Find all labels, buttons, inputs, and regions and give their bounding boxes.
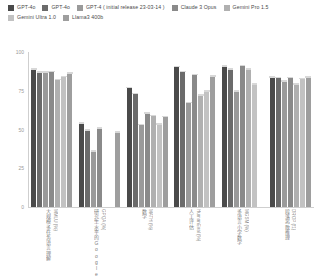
bar-value-cap — [228, 68, 234, 70]
bar-value-cap — [198, 94, 204, 96]
bar[interactable] — [49, 72, 54, 207]
x-axis-label-cell: HumanEval (%)人工评估 — [171, 209, 219, 279]
bar[interactable] — [157, 125, 162, 207]
bar-slot — [162, 52, 168, 207]
bar-value-cap — [150, 115, 156, 117]
x-axis-label-cell: MATH (%)数学 — [123, 209, 171, 279]
y-axis-tick-label: 100 — [16, 49, 28, 55]
x-axis-label-latin: MMLU (%) — [52, 209, 58, 231]
bar-value-cap — [162, 116, 168, 118]
legend-item[interactable]: GPT-4 ( initial release 23-03-14 ) — [77, 4, 165, 11]
bar[interactable] — [85, 131, 90, 207]
bar[interactable] — [163, 117, 168, 207]
legend-swatch-icon — [8, 5, 14, 11]
bar-value-cap — [222, 65, 228, 67]
legend-item[interactable]: Llama3 400b — [63, 14, 103, 21]
x-axis-label-cell: MGSM (%)多语言小学数学 — [219, 209, 267, 279]
bar-group-bars — [269, 52, 311, 207]
bar[interactable] — [115, 133, 120, 207]
bar-value-cap — [269, 76, 275, 78]
bar-value-cap — [305, 76, 311, 78]
bar-value-cap — [132, 93, 138, 95]
bar[interactable] — [186, 103, 191, 207]
legend-label: Claude 3 Opus — [181, 4, 217, 11]
legend-label: Gemini Ultra 1.0 — [17, 14, 56, 21]
bar-value-cap — [156, 123, 162, 125]
bar[interactable] — [204, 92, 209, 207]
bar[interactable] — [276, 78, 281, 207]
bar-value-cap — [49, 71, 55, 73]
bar-group — [28, 52, 76, 207]
x-axis-label-cell: MMLU (%)大规模多任务语言理解 — [28, 209, 76, 279]
legend-label: GPT-4o — [51, 4, 69, 11]
x-axis-labels: MMLU (%)大规模多任务语言理解GPQA (%)研究生水平的Google-P… — [28, 209, 314, 279]
bar[interactable] — [282, 82, 287, 207]
bar[interactable] — [294, 85, 299, 207]
bar-value-cap — [234, 90, 240, 92]
bar-value-cap — [204, 90, 210, 92]
bar[interactable] — [127, 88, 132, 207]
bar-group — [266, 52, 314, 207]
legend-item[interactable]: GPT-4o — [8, 4, 35, 11]
bar[interactable] — [43, 73, 48, 207]
bar[interactable] — [246, 70, 251, 207]
legend-swatch-icon — [8, 15, 14, 21]
bar[interactable] — [79, 124, 84, 207]
x-axis-label-latin: DROP (f1) — [290, 209, 296, 230]
bar-value-cap — [174, 66, 180, 68]
bar-group — [219, 52, 267, 207]
bar[interactable] — [133, 94, 138, 207]
bar[interactable] — [31, 70, 36, 207]
legend-label: GPT-4o — [17, 4, 35, 11]
legend-swatch-icon — [172, 5, 178, 11]
bar-slot — [210, 52, 216, 207]
legend-label: Llama3 400b — [72, 14, 103, 21]
bar-value-cap — [67, 72, 73, 74]
bar-group-bars — [222, 52, 264, 207]
bar[interactable] — [270, 78, 275, 207]
bar[interactable] — [222, 67, 227, 207]
bar[interactable] — [288, 78, 293, 207]
bar-value-cap — [252, 83, 258, 85]
y-axis-tick-label: 0 — [21, 204, 28, 210]
bar[interactable] — [91, 152, 96, 207]
bar-value-cap — [180, 71, 186, 73]
bar[interactable] — [192, 75, 197, 207]
legend-item[interactable]: Claude 3 Opus — [172, 4, 217, 11]
bar-group — [76, 52, 124, 207]
bar[interactable] — [240, 66, 245, 207]
bar-groups — [28, 52, 314, 207]
bar[interactable] — [306, 78, 311, 207]
bar[interactable] — [139, 125, 144, 207]
bar-value-cap — [210, 75, 216, 77]
x-axis-label-cell: DROP (f1)段落离散推理 — [266, 209, 314, 279]
bar[interactable] — [67, 74, 72, 207]
bar[interactable] — [210, 77, 215, 207]
bar[interactable] — [234, 92, 239, 207]
x-axis-label-latin: MGSM (%) — [243, 209, 249, 232]
bar[interactable] — [61, 77, 66, 207]
bar[interactable] — [97, 129, 102, 207]
bar-group-bars — [31, 52, 73, 207]
x-axis-label-latin: GPQA (%) — [100, 209, 106, 230]
bar-value-cap — [192, 74, 198, 76]
bar[interactable] — [228, 70, 233, 207]
bar[interactable] — [151, 116, 156, 207]
bar-value-cap — [43, 71, 49, 73]
bar[interactable] — [180, 72, 185, 207]
bar[interactable] — [252, 85, 257, 207]
legend-item[interactable]: Gemini Pro 1.5 — [224, 4, 269, 11]
bar-value-cap — [31, 68, 37, 70]
bar-value-cap — [61, 76, 67, 78]
legend-item[interactable]: Gemini Ultra 1.0 — [8, 14, 56, 21]
bar[interactable] — [55, 80, 60, 207]
legend-item[interactable]: GPT-4o — [42, 4, 69, 11]
y-axis-tick-label: 75 — [18, 88, 28, 94]
bar-group — [123, 52, 171, 207]
bar[interactable] — [37, 73, 42, 207]
bar[interactable] — [198, 96, 203, 207]
bar[interactable] — [145, 114, 150, 207]
bar[interactable] — [174, 67, 179, 207]
x-axis-label-latin: HumanEval (%) — [195, 209, 201, 241]
bar[interactable] — [300, 79, 305, 207]
